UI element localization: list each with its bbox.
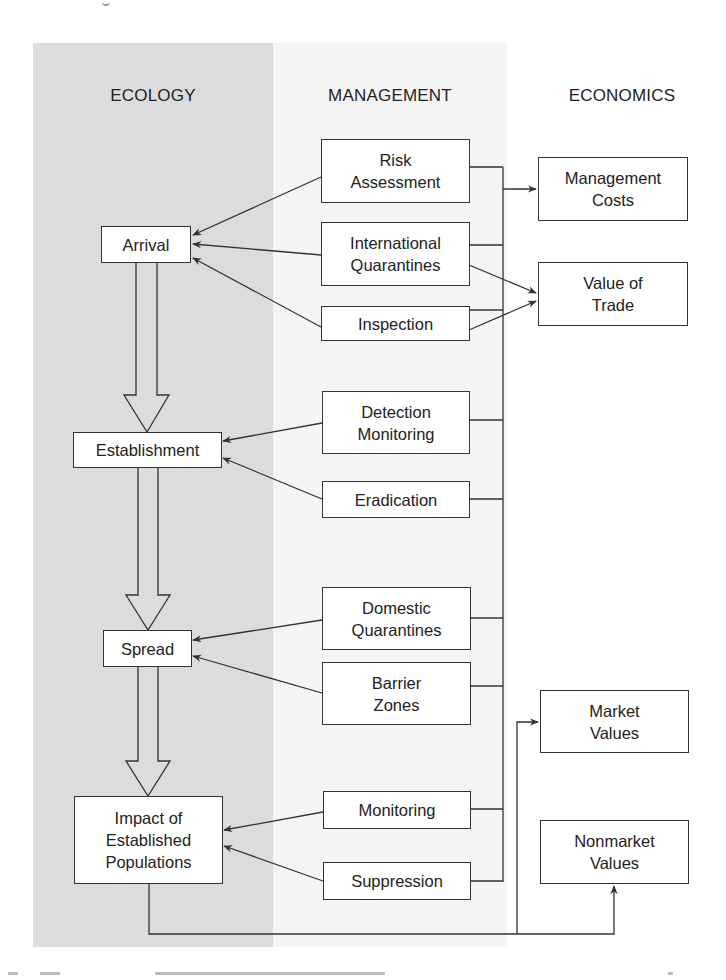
action-monitoring: Monitoring — [323, 791, 471, 829]
outcome-management-costs: Management Costs — [538, 157, 688, 221]
action-barrier-zones: Barrier Zones — [322, 662, 471, 725]
action-eradication: Eradication — [322, 481, 470, 518]
ecology-header: ECOLOGY — [33, 86, 273, 106]
action-international-quarantines: International Quarantines — [321, 222, 470, 286]
outcome-market-values: Market Values — [540, 690, 689, 753]
outcome-nonmarket-values: Nonmarket Values — [540, 820, 689, 884]
management-header: MANAGEMENT — [273, 86, 507, 106]
cropped-caption-fragment — [40, 972, 60, 975]
cropped-caption-fragment — [668, 972, 673, 975]
cropped-caption-fragment — [8, 972, 18, 975]
action-inspection: Inspection — [321, 306, 470, 341]
stage-establishment: Establishment — [73, 432, 222, 468]
stage-arrival: Arrival — [101, 226, 191, 263]
cropped-caption-fragment — [155, 972, 385, 975]
action-risk-assessment: Risk Assessment — [321, 139, 470, 203]
action-domestic-quarantines: Domestic Quarantines — [322, 587, 471, 650]
action-suppression: Suppression — [323, 862, 471, 900]
cropped-text-fragment-top — [102, 0, 110, 6]
action-detection-monitoring: Detection Monitoring — [322, 391, 470, 454]
economics-header: ECONOMICS — [527, 86, 717, 106]
stage-spread: Spread — [103, 630, 192, 667]
outcome-value-of-trade: Value of Trade — [538, 262, 688, 326]
stage-impact: Impact of Established Populations — [74, 796, 223, 884]
